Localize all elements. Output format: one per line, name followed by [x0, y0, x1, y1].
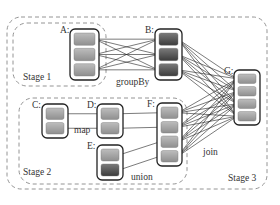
operation-join-label: join — [202, 147, 218, 157]
stage-3-box — [7, 17, 267, 189]
rdd-c-label: C: — [32, 100, 41, 110]
operation-groupby-label: groupBy — [116, 77, 150, 87]
partition-f-3 — [161, 136, 178, 148]
partition-a-2 — [74, 48, 95, 60]
rdd-f-label: F: — [147, 99, 155, 109]
stage-dag-diagram: Stage 1Stage 2Stage 3 A:B:C:D:E:F:G: gro… — [0, 0, 280, 205]
stage-2-label: Stage 2 — [23, 167, 51, 177]
partition-c-2 — [46, 123, 64, 135]
partition-a-3 — [74, 64, 95, 76]
partition-e-1 — [101, 149, 119, 161]
operation-union-label: union — [131, 172, 153, 182]
rdd-boxes: A:B:C:D:E:F:G: — [32, 25, 260, 180]
rdd-g-label: G: — [224, 66, 234, 76]
partition-f-1 — [161, 107, 178, 119]
partition-f-2 — [161, 122, 178, 134]
partition-c-1 — [46, 108, 64, 120]
stage-3-label: Stage 3 — [228, 173, 256, 183]
partition-b-3 — [159, 64, 178, 76]
operation-map-label: map — [74, 125, 91, 135]
partition-g-3 — [238, 99, 256, 109]
rdd-b-label: B: — [145, 25, 154, 35]
partition-a-1 — [74, 33, 95, 45]
partition-b-1 — [159, 33, 178, 45]
rdd-e-label: E: — [87, 141, 95, 151]
rdd-a-label: A: — [60, 25, 70, 35]
rdd-d-label: D: — [87, 100, 97, 110]
partition-b-2 — [159, 48, 178, 60]
partition-g-1 — [238, 74, 256, 84]
stage-boxes: Stage 1Stage 2Stage 3 — [7, 17, 267, 189]
partition-e-2 — [101, 164, 119, 176]
partition-d-2 — [101, 123, 119, 135]
stage-1-label: Stage 1 — [23, 72, 51, 82]
partition-f-4 — [161, 151, 178, 163]
partition-d-1 — [101, 108, 119, 120]
operation-labels: groupBymapunionjoin — [74, 77, 218, 182]
partition-g-2 — [238, 87, 256, 97]
partition-g-4 — [238, 112, 256, 122]
